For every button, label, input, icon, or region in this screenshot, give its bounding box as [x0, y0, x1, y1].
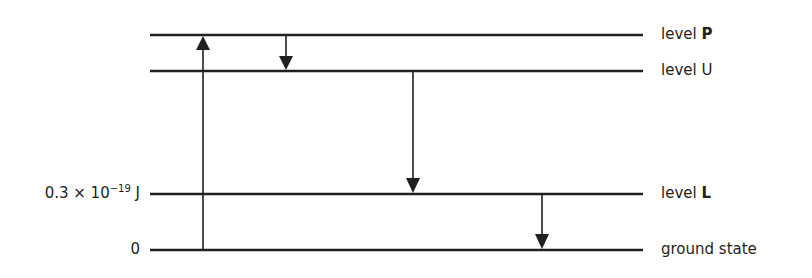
ground-energy-zero: 0	[130, 240, 140, 258]
energy-unit: J	[131, 184, 140, 202]
arrow-down-icon	[535, 234, 549, 249]
arrow-down-icon	[406, 178, 420, 193]
ground-state-label: ground state	[661, 240, 757, 258]
transition-l-to-ground-arrow	[535, 194, 549, 249]
arrow-down-icon	[279, 56, 293, 70]
transition-u-to-l-arrow	[406, 71, 420, 193]
level-l-energy-value: 0.3 × 10−19 J	[45, 184, 140, 204]
level-p-label: level P	[661, 25, 712, 43]
level-l-label: level L	[661, 184, 711, 202]
ground-state-name: ground state	[661, 240, 757, 258]
level-u-label: level U	[661, 61, 712, 79]
energy-exponent: −19	[110, 183, 131, 194]
level-p-prefix: level	[661, 25, 701, 43]
level-l-name: L	[701, 184, 711, 202]
ground-energy-value: 0	[130, 240, 140, 258]
arrow-up-icon	[196, 36, 210, 50]
transition-p-to-u-arrow	[279, 35, 293, 70]
level-u-prefix: level	[661, 61, 701, 79]
transition-ground-to-p-arrow	[196, 36, 210, 250]
level-l-prefix: level	[661, 184, 701, 202]
level-u-name: U	[701, 61, 712, 79]
energy-mantissa: 0.3 × 10	[45, 184, 110, 202]
level-p-name: P	[701, 25, 712, 43]
